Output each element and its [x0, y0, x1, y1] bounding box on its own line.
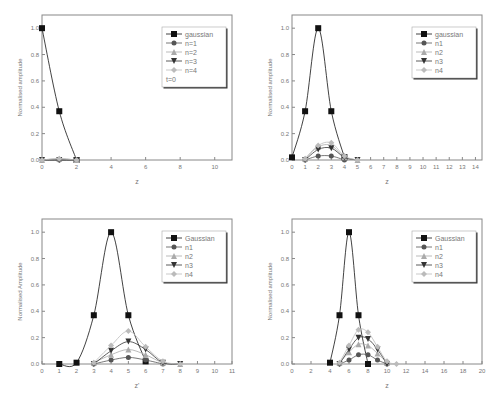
x-axis-label: z' [135, 382, 140, 389]
y-tick-label: 0.2 [31, 335, 40, 341]
y-tick-label: 0.8 [281, 52, 290, 58]
y-tick-label: 0.0 [31, 361, 40, 367]
x-axis-label: z [385, 178, 389, 185]
x-tick-label: 0 [40, 368, 44, 374]
legend-label: n4 [185, 271, 193, 278]
legend-label: n=2 [185, 49, 197, 56]
y-tick-label: 0.4 [281, 104, 290, 110]
series-gaussian [56, 229, 148, 367]
x-tick-label: 14 [422, 368, 429, 374]
x-tick-label: 0 [290, 368, 294, 374]
y-tick-label: 0.4 [31, 308, 40, 314]
legend-gaussian-marker [421, 235, 427, 241]
x-tick-label: 18 [460, 368, 467, 374]
x-tick-label: 4 [109, 368, 113, 374]
y-tick-label: 1.0 [281, 229, 290, 235]
legend-label: n2 [435, 253, 443, 260]
x-tick-label: 5 [356, 164, 360, 170]
x-tick-label: 9 [196, 368, 200, 374]
x-tick-label: 11 [433, 164, 440, 170]
chart-svg: 012345678910110.00.20.40.60.81.0z'Normal… [0, 204, 250, 408]
chart-panel-bottom-left: 012345678910110.00.20.40.60.81.0z'Normal… [0, 204, 250, 408]
x-axis-label: z [135, 178, 139, 185]
n2-marker [143, 352, 149, 358]
gaussian-marker [56, 108, 62, 114]
x-tick-label: 0 [290, 164, 294, 170]
legend: gaussiann1n2n3n4 [412, 27, 478, 80]
legend-gaussian-marker [171, 235, 177, 241]
x-tick-label: 4 [343, 164, 347, 170]
x-tick-label: 2 [317, 164, 321, 170]
y-tick-label: 0.0 [281, 361, 290, 367]
legend-label: n1 [185, 244, 193, 251]
n1-marker [126, 355, 131, 360]
y-tick-label: 0.4 [31, 104, 40, 110]
legend-gaussian-marker [421, 31, 427, 37]
chart-svg: 02468100.00.20.40.60.81.0zNormalised amp… [0, 0, 250, 204]
series-gaussian [39, 25, 80, 163]
x-tick-label: 8 [179, 368, 183, 374]
x-tick-label: 10 [211, 368, 218, 374]
legend-n1-marker [422, 41, 427, 46]
n1-marker [316, 154, 321, 159]
legend-label: n4 [435, 67, 443, 74]
gaussian-marker [365, 361, 371, 367]
figure-grid: 02468100.00.20.40.60.81.0zNormalised amp… [0, 0, 500, 408]
n1-marker [356, 352, 361, 357]
x-tick-label: 12 [403, 368, 410, 374]
x-tick-label: 10 [211, 164, 218, 170]
y-tick-label: 1.0 [281, 25, 290, 31]
y-tick-label: 0.0 [281, 157, 290, 163]
legend-label: n4 [435, 271, 443, 278]
x-tick-label: 6 [144, 164, 148, 170]
legend: Gaussiann1n2n3n4 [162, 231, 228, 284]
x-tick-label: 14 [472, 164, 479, 170]
x-tick-label: 9 [408, 164, 412, 170]
x-tick-label: 3 [92, 368, 96, 374]
gaussian-marker [327, 360, 333, 366]
y-tick-label: 0.2 [281, 335, 290, 341]
y-tick-label: 0.6 [281, 282, 290, 288]
chart-svg: 012345678910111213140.00.20.40.60.81.0zN… [250, 0, 500, 204]
gaussian-marker [91, 312, 97, 318]
n4-marker [375, 344, 381, 350]
n1-marker [109, 358, 114, 363]
y-axis-label: Normalised amplitude [267, 58, 273, 117]
x-tick-label: 3 [330, 164, 334, 170]
n2-marker [365, 343, 371, 349]
y-tick-label: 0.6 [281, 78, 290, 84]
legend-n-1-marker [172, 41, 177, 46]
gaussian-marker [315, 25, 321, 31]
y-tick-label: 0.8 [31, 256, 40, 262]
y-tick-label: 0.8 [31, 52, 40, 58]
legend-n1-marker [172, 245, 177, 250]
x-tick-label: 6 [144, 368, 148, 374]
chart-svg: 024681012141618200.00.20.40.60.81.0zNorm… [250, 204, 500, 408]
y-tick-label: 1.0 [31, 229, 40, 235]
y-tick-label: 0.6 [31, 78, 40, 84]
legend-label: n=1 [185, 40, 197, 47]
n2-marker [356, 341, 362, 347]
x-tick-label: 2 [75, 164, 79, 170]
y-tick-label: 0.8 [281, 256, 290, 262]
legend-n1-marker [422, 245, 427, 250]
x-tick-label: 8 [395, 164, 399, 170]
y-axis-label: Normalised amplitude [17, 58, 23, 117]
legend-label: n2 [185, 253, 193, 260]
y-tick-label: 0.4 [281, 308, 290, 314]
y-tick-label: 0.2 [281, 131, 290, 137]
legend-label: Gaussian [185, 235, 215, 242]
n1-marker [375, 358, 380, 363]
legend-label: n3 [435, 262, 443, 269]
n4-marker [125, 328, 131, 334]
x-tick-label: 5 [127, 368, 131, 374]
x-tick-label: 8 [179, 164, 183, 170]
legend-label: n3 [185, 262, 193, 269]
x-tick-label: 0 [40, 164, 44, 170]
gaussian-marker [346, 229, 352, 235]
legend-gaussian-marker [171, 31, 177, 37]
legend-label: n1 [435, 244, 443, 251]
gaussian-marker [108, 229, 114, 235]
legend: Gaussiann1n2n3n4 [412, 231, 478, 284]
y-tick-label: 0.0 [31, 157, 40, 163]
